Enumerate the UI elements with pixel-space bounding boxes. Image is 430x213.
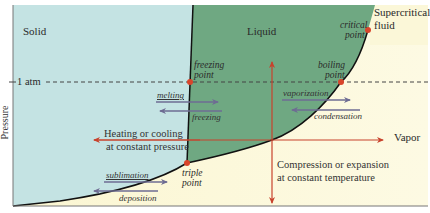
deposition-label: deposition: [119, 194, 157, 203]
boiling-point-label-line2: point: [325, 71, 345, 81]
vaporization-label: vaporization: [283, 89, 329, 98]
critical-point-label-line2: point: [345, 31, 365, 41]
supercritical-label-line2: fluid: [374, 20, 395, 31]
freezing-point-marker: [187, 79, 193, 85]
vapor-label: Vapor: [394, 132, 420, 143]
freezing-label: freezing: [192, 113, 221, 122]
freezing-point-label-line2: point: [194, 71, 214, 81]
supercritical-label-line1: Supercritical: [374, 7, 430, 18]
liquid-label: Liquid: [247, 26, 276, 37]
melting-label: melting: [157, 91, 184, 100]
isothermal-note-line1: Compression or expansion: [277, 159, 389, 171]
sublimation-label: sublimation: [106, 171, 149, 180]
condensation-label: condensation: [314, 112, 362, 121]
triple-point-label-line2: point: [182, 179, 202, 189]
isobaric-note-line1: Heating or cooling: [104, 128, 183, 140]
one-atm-label: 1 atm: [17, 77, 41, 88]
solid-label: Solid: [23, 26, 46, 37]
isobaric-note-line2: at constant pressure: [106, 141, 189, 153]
triple-point-marker: [184, 160, 190, 166]
y-axis-label: Pressure: [0, 106, 10, 140]
isothermal-note-line2: at constant temperature: [277, 172, 375, 184]
